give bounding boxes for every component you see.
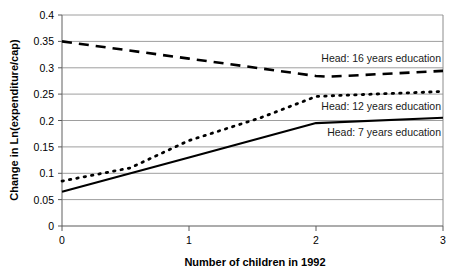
y-axis-title: Change in Ln(expenditure/cap) xyxy=(8,39,20,201)
x-tick-label-2: 2 xyxy=(313,234,319,246)
x-tick-marks xyxy=(62,226,443,231)
series-label-edu16: Head: 16 years education xyxy=(321,52,441,64)
series-label-edu12: Head: 12 years education xyxy=(321,100,441,112)
chart-container: 0.4 0.35 0.3 0.25 0.2 0.15 0.1 0.05 0 0 … xyxy=(0,0,459,273)
y-tick-label-0.35: 0.35 xyxy=(34,35,55,47)
y-tick-label-0.2: 0.2 xyxy=(39,115,54,127)
y-tick-label-0.05: 0.05 xyxy=(34,194,55,206)
y-tick-label-0.15: 0.15 xyxy=(34,141,55,153)
series-label-edu7: Head: 7 years education xyxy=(327,126,441,138)
x-axis-title: Number of children in 1992 xyxy=(184,256,325,268)
x-tick-label-3: 3 xyxy=(440,234,446,246)
line-chart: 0.4 0.35 0.3 0.25 0.2 0.15 0.1 0.05 0 0 … xyxy=(0,0,459,273)
y-tick-label-0.1: 0.1 xyxy=(39,167,54,179)
y-tick-label-0.25: 0.25 xyxy=(34,88,55,100)
y-tick-label-0: 0 xyxy=(48,220,54,232)
y-tick-label-0.3: 0.3 xyxy=(39,62,54,74)
x-tick-label-0: 0 xyxy=(59,234,65,246)
x-tick-label-1: 1 xyxy=(186,234,192,246)
y-tick-label-0.4: 0.4 xyxy=(39,9,54,21)
